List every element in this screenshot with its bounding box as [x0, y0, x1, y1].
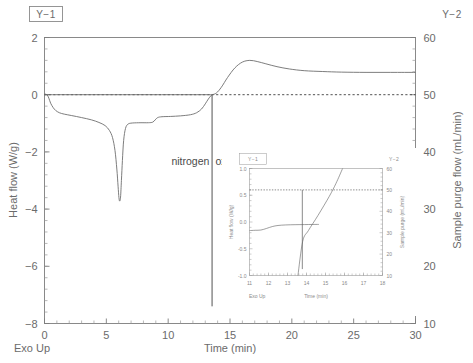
exo-up-label: Exo Up [14, 342, 50, 354]
main-y1-axis: 20−2−4−6−8 [25, 32, 50, 330]
inset-x-tick-label: 13 [285, 280, 291, 286]
chart-svg: 20−2−4−6−8 Heat flow (W/g) 605040302010 … [0, 0, 473, 363]
x-tick-label: 30 [409, 329, 421, 341]
y2-tick-label: 20 [424, 260, 436, 272]
y1-tick-label: −8 [25, 318, 38, 330]
inset-y2-legend-label: Y−2 [389, 156, 399, 162]
inset-y2-tick-label: 50 [387, 187, 393, 193]
inset-y2-tick-label: 10 [387, 273, 393, 279]
x-tick-label: 0 [41, 329, 47, 341]
y1-legend-label: Y−1 [36, 9, 56, 20]
inset-x-tick-label: 18 [380, 280, 386, 286]
y1-tick-label: −6 [25, 260, 38, 272]
inset-y1-legend-label: Y−1 [248, 156, 258, 162]
inset-y1-tick-label: 1.0 [240, 166, 247, 172]
inset-x-axis-title: Time (min) [304, 293, 328, 299]
inset-y1-tick-label: -0.5 [238, 246, 247, 252]
main-x-axis: 051015202530 [41, 319, 421, 341]
inset-y1-axis-title: Heat flow (W/g) [228, 204, 234, 239]
y2-tick-label: 30 [424, 203, 436, 215]
x-tick-label: 5 [103, 329, 109, 341]
y2-tick-label: 40 [424, 146, 436, 158]
y1-tick-label: 0 [31, 89, 37, 101]
inset-plot: 1.00.50.0-0.5-1.0 605040302010 111213141… [222, 148, 420, 316]
y2-tick-label: 60 [424, 32, 436, 44]
inset-y1-tick-label: 0.5 [240, 192, 247, 198]
inset-y2-tick-label: 60 [387, 166, 393, 172]
x-axis-title: Time (min) [204, 342, 256, 354]
x-tick-label: 20 [286, 329, 298, 341]
inset-y2-tick-label: 20 [387, 251, 393, 257]
x-tick-label: 15 [224, 329, 236, 341]
y2-tick-label: 50 [424, 89, 436, 101]
inset-y1-tick-label: 0.0 [240, 219, 247, 225]
inset-x-tick-label: 15 [323, 280, 329, 286]
inset-x-tick-label: 12 [266, 280, 272, 286]
inset-x-tick-label: 11 [247, 280, 252, 286]
inset-x-tick-label: 17 [361, 280, 367, 286]
y1-tick-label: −4 [25, 203, 38, 215]
x-tick-label: 10 [162, 329, 174, 341]
annotation-nitrogen: nitrogen [171, 155, 209, 167]
inset-y1-tick-label: -1.0 [238, 273, 247, 279]
y1-axis-title: Heat flow (W/g) [7, 142, 19, 218]
y2-legend-label: Y−2 [442, 9, 462, 20]
inset-exo-up-label: Exo Up [249, 293, 266, 299]
inset-y2-tick-label: 30 [387, 230, 393, 236]
y2-tick-label: 10 [424, 318, 436, 330]
sample-purge-flow-curve [45, 60, 416, 94]
y2-axis-title: Sample purge flow (mL/min) [451, 111, 463, 249]
inset-x-tick-label: 14 [304, 280, 310, 286]
heat-flow-curve [45, 94, 213, 201]
y1-tick-label: 2 [31, 32, 37, 44]
inset-y2-axis-title: Sample purge (mL/min) [399, 196, 405, 249]
dsc-thermogram-figure: 20−2−4−6−8 Heat flow (W/g) 605040302010 … [0, 0, 473, 363]
y1-tick-label: −2 [25, 146, 38, 158]
inset-y2-tick-label: 40 [387, 208, 393, 214]
inset-x-tick-label: 16 [342, 280, 348, 286]
x-tick-label: 25 [348, 329, 360, 341]
